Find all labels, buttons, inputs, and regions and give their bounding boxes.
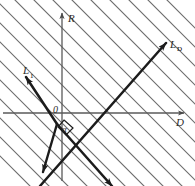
angle-label: α <box>62 124 67 134</box>
figure-canvas: R D 0 α L D L 1 <box>0 0 195 186</box>
hatch-line <box>104 0 195 186</box>
hatch-line <box>85 0 195 186</box>
line-L1-label: L 1 <box>22 64 34 80</box>
line-LD-label-base: L <box>169 38 176 50</box>
line-L1-lower-left-ray <box>43 124 57 172</box>
r-axis-label: R <box>67 12 75 24</box>
line-LD-label-sub: D <box>177 45 182 53</box>
d-axis-label: D <box>175 116 184 128</box>
hatching-group <box>0 0 195 186</box>
line-L1-label-sub: 1 <box>30 72 34 80</box>
hatch-line <box>161 0 195 186</box>
line-L1-label-base: L <box>22 64 29 76</box>
diagram-svg: R D 0 α L D L 1 <box>0 0 195 186</box>
origin-label: 0 <box>53 104 58 115</box>
hatch-line <box>0 0 122 186</box>
line-LD-label: L D <box>169 38 182 53</box>
hatch-line <box>28 0 195 186</box>
hatch-line <box>142 0 195 186</box>
hatch-line <box>0 0 46 186</box>
